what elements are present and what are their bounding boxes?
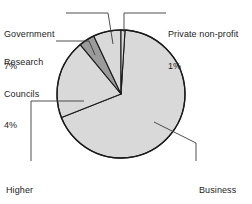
slice-label-business-enterprise: Business enterprise 68% <box>199 164 240 204</box>
slice-label-higher-education-name-1: Higher <box>6 185 46 196</box>
slice-label-research-councils: Research Councils 4% <box>4 36 43 152</box>
pie-chart: Government 7% Research Councils 4% Priva… <box>0 0 252 204</box>
slice-label-higher-education: Higher education 20% <box>6 164 46 204</box>
slice-label-private-non-profit-value: 1% <box>168 61 238 72</box>
slice-label-research-councils-name-2: Councils <box>4 89 43 100</box>
slice-label-research-councils-value: 4% <box>4 120 43 131</box>
slice-label-business-enterprise-name-1: Business <box>199 185 240 196</box>
leader-line-private-non-profit <box>124 13 166 32</box>
slice-label-research-councils-name-1: Research <box>4 57 43 68</box>
slice-label-private-non-profit: Private non-profit 1% <box>168 8 238 92</box>
slice-label-private-non-profit-name: Private non-profit <box>168 29 238 40</box>
